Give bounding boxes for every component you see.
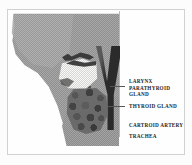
label-trachea: TRACHEA [129, 133, 157, 139]
leader-line-parathyroid [110, 86, 125, 87]
label-carotid-artery: CARTROID ARTERY [129, 122, 183, 128]
label-parathyroid-gland: PARATHYROID GLAND [129, 85, 170, 98]
label-thyroid-gland: THYROID GLAND [129, 103, 177, 109]
anatomical-figure: LARYNX PARATHYROID GLAND THYROID GLAND C… [0, 0, 192, 165]
panel-right-edge-line [119, 11, 120, 137]
label-larynx: LARYNX [129, 78, 153, 84]
leader-line-thyroid [108, 106, 125, 107]
